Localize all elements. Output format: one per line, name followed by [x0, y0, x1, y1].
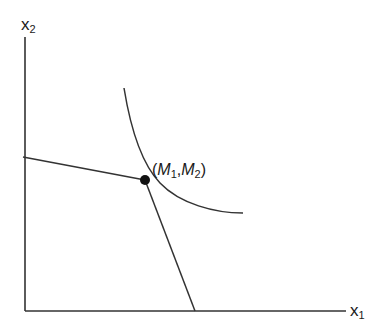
y-axis-label: x2	[21, 15, 36, 35]
diagram-canvas: (M1,M2) x2 x1	[0, 0, 382, 330]
budget-line-flat	[23, 157, 145, 180]
budget-line-steep	[145, 180, 195, 311]
indifference-curve	[124, 88, 243, 213]
point-label: (M1,M2)	[152, 161, 206, 180]
tangent-point-marker	[140, 175, 150, 185]
x-axis-label: x1	[350, 301, 365, 321]
